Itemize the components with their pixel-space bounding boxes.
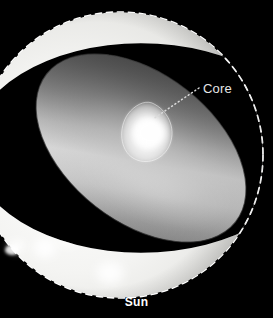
- core-hotspot: [134, 119, 166, 147]
- solar-flare: [5, 237, 29, 255]
- sun-cutaway-figure: Core Sun: [0, 0, 273, 318]
- sun-illustration-svg: [0, 0, 273, 318]
- core-label: Core: [203, 81, 232, 96]
- sun-caption: Sun: [0, 295, 273, 309]
